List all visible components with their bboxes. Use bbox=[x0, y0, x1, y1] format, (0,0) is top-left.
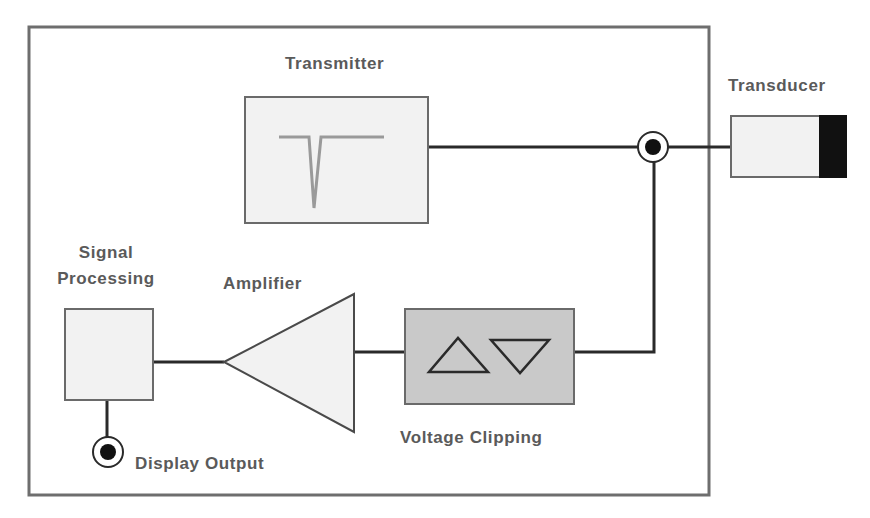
junction-connector-icon bbox=[638, 132, 668, 162]
transducer-label: Transducer bbox=[728, 77, 826, 94]
signal-processing-box bbox=[65, 309, 153, 400]
transducer-block bbox=[731, 116, 846, 177]
transducer-body bbox=[731, 116, 821, 177]
transmitter-box bbox=[245, 97, 428, 223]
signal-processing-label-line2: Processing bbox=[46, 270, 166, 287]
transmitter-block bbox=[245, 97, 428, 223]
voltage-clipping-box bbox=[405, 309, 574, 404]
display-output-label: Display Output bbox=[135, 455, 264, 472]
voltage-clipping-label: Voltage Clipping bbox=[400, 429, 542, 446]
transducer-face bbox=[820, 116, 846, 177]
wire-junction-to-clipping bbox=[574, 155, 654, 352]
amplifier-label: Amplifier bbox=[223, 275, 302, 292]
display-output-connector-icon bbox=[93, 437, 123, 467]
signal-processing-label-line1: Signal bbox=[48, 244, 164, 261]
amplifier-triangle-icon bbox=[224, 294, 354, 432]
transmitter-label: Transmitter bbox=[285, 55, 384, 72]
voltage-clipping-block bbox=[405, 309, 574, 404]
